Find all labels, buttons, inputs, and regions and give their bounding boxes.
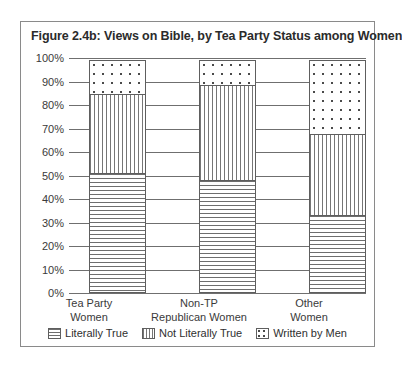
xtick-label-non-tp-republican-women: Non-TP Republican Women [144, 296, 254, 324]
legend-label-not-literally-true: Not Literally True [159, 327, 242, 339]
xtick-line-1: Tea Party [34, 296, 144, 310]
xtick-label-other-women: Other Women [254, 296, 364, 324]
ytick-label-20: 20% [42, 240, 64, 252]
bar-segment-not-literally-true[interactable] [309, 134, 366, 216]
bar-tea-party-women[interactable] [89, 58, 146, 293]
bar-segment-written-by-men[interactable] [89, 60, 146, 95]
bar-segment-written-by-men[interactable] [199, 60, 256, 86]
ytick-label-10: 10% [42, 264, 64, 276]
xtick-line-1: Other [254, 296, 364, 310]
legend-swatch-horizontal-lines-icon [48, 328, 61, 339]
ytick-label-100: 100% [36, 52, 64, 64]
legend-item-literally-true: Literally True [48, 327, 128, 339]
xtick-line-1: Non-TP [144, 296, 254, 310]
plot-area: 100% 90% 80% 70% 60% 50% 40% 30% 20% 10% [69, 58, 366, 293]
ytick-label-60: 60% [42, 146, 64, 158]
legend-swatch-dots-icon [256, 328, 269, 339]
chart-title: Figure 2.4b: Views on Bible, by Tea Part… [31, 29, 402, 43]
chart-legend: Literally True Not Literally True Writte… [21, 327, 374, 339]
bar-non-tp-republican-women[interactable] [199, 58, 256, 293]
legend-label-written-by-men: Written by Men [273, 327, 347, 339]
ytick-label-40: 40% [42, 193, 64, 205]
ytick-label-30: 30% [42, 217, 64, 229]
ytick-label-70: 70% [42, 123, 64, 135]
legend-swatch-vertical-lines-icon [142, 328, 155, 339]
xtick-label-tea-party-women: Tea Party Women [34, 296, 144, 324]
xtick-line-2: Republican Women [144, 310, 254, 324]
bar-segment-literally-true[interactable] [309, 215, 366, 293]
xtick-line-2: Women [34, 310, 144, 324]
x-axis-line [69, 293, 366, 294]
bar-other-women[interactable] [309, 58, 366, 293]
figure-container: Figure 2.4b: Views on Bible, by Tea Part… [20, 21, 375, 347]
bar-segment-not-literally-true[interactable] [199, 85, 256, 181]
bar-segment-written-by-men[interactable] [309, 60, 366, 135]
legend-item-not-literally-true: Not Literally True [142, 327, 242, 339]
ytick-label-50: 50% [42, 170, 64, 182]
bar-segment-literally-true[interactable] [199, 180, 256, 293]
bar-segment-literally-true[interactable] [89, 173, 146, 293]
legend-item-written-by-men: Written by Men [256, 327, 347, 339]
xtick-line-2: Women [254, 310, 364, 324]
bar-segment-not-literally-true[interactable] [89, 94, 146, 174]
ytick-label-80: 80% [42, 99, 64, 111]
ytick-label-90: 90% [42, 76, 64, 88]
legend-label-literally-true: Literally True [65, 327, 128, 339]
